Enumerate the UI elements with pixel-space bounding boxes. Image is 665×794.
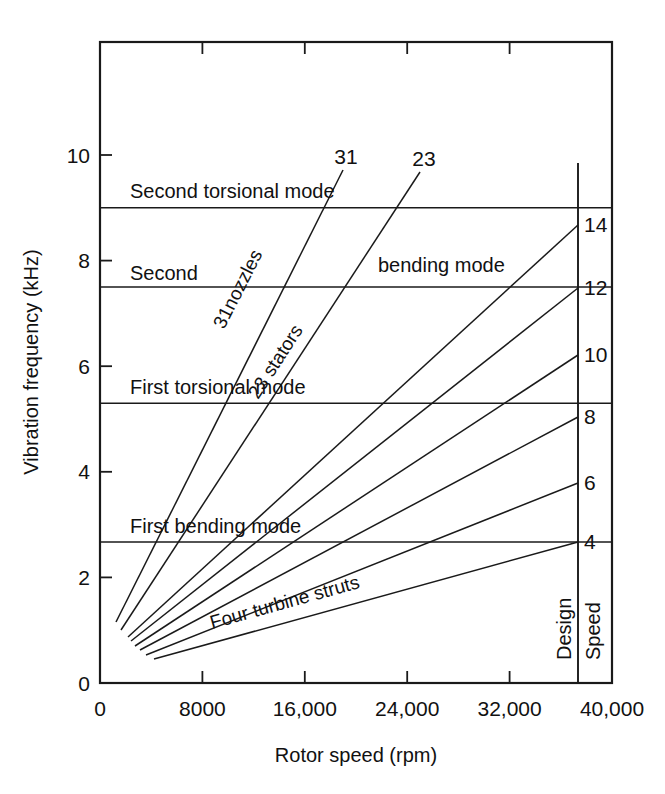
y-axis-tick-labels: 0 2 4 6 8 10 — [67, 144, 91, 695]
mode-label-second: Second — [130, 262, 198, 284]
y-tick-label-10: 10 — [67, 144, 90, 167]
y-tick-label-2: 2 — [78, 566, 90, 589]
campbell-diagram-figure: 0 2 4 6 8 10 0 8000 16,000 24,000 32,000… — [0, 0, 665, 794]
mode-lines — [100, 208, 612, 542]
x-tick-label-32000: 32,000 — [477, 697, 541, 720]
y-tick-label-6: 6 — [78, 355, 90, 378]
mode-label-bending-mode: bending mode — [378, 254, 505, 276]
x-tick-label-0: 0 — [94, 697, 106, 720]
x-tick-label-24000: 24,000 — [375, 697, 439, 720]
x-tick-label-8000: 8000 — [179, 697, 226, 720]
right-axis-order-labels: 14 12 10 8 6 4 — [584, 213, 608, 553]
order-label-6: 6 — [584, 471, 596, 494]
order-label-8: 8 — [584, 405, 596, 428]
order-label-14: 14 — [584, 213, 608, 236]
mode-label-second-torsional: Second torsional mode — [130, 180, 335, 202]
order-line-4 — [154, 542, 578, 659]
y-axis-title: Vibration frequency (kHz) — [20, 249, 42, 474]
order-callout-31: 31 — [334, 145, 357, 168]
x-tick-label-40000: 40,000 — [580, 697, 644, 720]
y-tick-label-8: 8 — [78, 249, 90, 272]
x-tick-label-16000: 16,000 — [273, 697, 337, 720]
order-line-23 — [121, 172, 420, 630]
order-label-4: 4 — [584, 530, 596, 553]
mode-label-first-torsional: First torsional mode — [130, 376, 306, 398]
order-label-12: 12 — [584, 276, 607, 299]
design-speed-caption-speed: Speed — [582, 602, 604, 660]
y-tick-label-4: 4 — [78, 460, 90, 483]
design-speed-caption-design: Design — [553, 598, 575, 660]
x-axis-title: Rotor speed (rpm) — [275, 744, 437, 766]
y-tick-label-0: 0 — [78, 672, 90, 695]
order-callout-23: 23 — [412, 147, 435, 170]
order-line-6 — [146, 483, 578, 655]
y-axis-ticks — [100, 155, 112, 683]
mode-label-first-bending: First bending mode — [130, 515, 301, 537]
x-axis-tick-labels: 0 8000 16,000 24,000 32,000 40,000 — [94, 697, 644, 720]
order-inline-label-31-nozzles: 31nozzles — [209, 246, 267, 332]
campbell-diagram-svg: 0 2 4 6 8 10 0 8000 16,000 24,000 32,000… — [0, 0, 665, 794]
order-label-10: 10 — [584, 343, 607, 366]
